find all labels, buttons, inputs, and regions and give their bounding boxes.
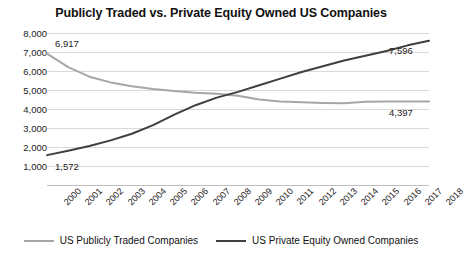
x-axis-tick-label: 2010 bbox=[274, 186, 295, 207]
x-axis-tick-label: 2011 bbox=[295, 186, 316, 207]
x-axis-tick-label: 2008 bbox=[232, 186, 253, 207]
series-line bbox=[47, 41, 429, 155]
y-axis-tick-label: 2,000 bbox=[3, 142, 47, 153]
y-axis-tick-label: 1,000 bbox=[3, 161, 47, 172]
x-axis-tick-label: 2014 bbox=[359, 186, 380, 207]
data-point-label: 1,572 bbox=[55, 161, 79, 172]
y-axis-tick-label: 5,000 bbox=[3, 85, 47, 96]
y-axis-tick-label: 4,000 bbox=[3, 104, 47, 115]
plot-area: 6,9171,5727,5964,397 bbox=[47, 33, 429, 185]
x-axis-tick-label: 2000 bbox=[62, 186, 83, 207]
y-axis-tick-label: 3,000 bbox=[3, 123, 47, 134]
legend-item-label: US Publicly Traded Companies bbox=[60, 235, 198, 246]
y-axis-tick-label: 6,000 bbox=[3, 66, 47, 77]
x-axis-tick-label: 2003 bbox=[126, 186, 147, 207]
y-axis: 8,0007,0006,0005,0004,0003,0002,0001,000 bbox=[0, 33, 47, 185]
x-axis-tick-label: 2007 bbox=[210, 186, 231, 207]
x-axis-tick-label: 2012 bbox=[317, 186, 338, 207]
y-axis-tick-label: 7,000 bbox=[3, 47, 47, 58]
chart-legend: US Publicly Traded CompaniesUS Private E… bbox=[0, 235, 442, 246]
x-axis-tick-label: 2018 bbox=[444, 186, 465, 207]
legend-item-label: US Private Equity Owned Companies bbox=[252, 235, 418, 246]
x-axis-tick-label: 2001 bbox=[83, 186, 104, 207]
x-axis-tick-label: 2005 bbox=[168, 186, 189, 207]
x-axis-tick-label: 2009 bbox=[253, 186, 274, 207]
x-axis-tick-label: 2016 bbox=[401, 186, 422, 207]
y-axis-tick-label: 8,000 bbox=[3, 28, 47, 39]
chart-title: Publicly Traded vs. Private Equity Owned… bbox=[0, 6, 442, 20]
legend-item[interactable]: US Publicly Traded Companies bbox=[24, 235, 198, 246]
data-point-label: 7,596 bbox=[389, 45, 413, 56]
legend-color-swatch bbox=[24, 240, 54, 242]
data-point-label: 4,397 bbox=[389, 107, 413, 118]
x-axis: 2000200120022003200420052006200720082009… bbox=[47, 186, 429, 228]
x-axis-tick-label: 2013 bbox=[338, 186, 359, 207]
x-axis-tick-label: 2017 bbox=[423, 186, 444, 207]
legend-item[interactable]: US Private Equity Owned Companies bbox=[216, 235, 418, 246]
series-line bbox=[47, 54, 429, 104]
x-axis-tick-label: 2015 bbox=[380, 186, 401, 207]
legend-color-swatch bbox=[216, 240, 246, 242]
data-point-label: 6,917 bbox=[55, 38, 79, 49]
series-lines bbox=[47, 33, 429, 185]
x-axis-tick-label: 2002 bbox=[104, 186, 125, 207]
x-axis-tick-label: 2006 bbox=[189, 186, 210, 207]
x-axis-tick-label: 2004 bbox=[147, 186, 168, 207]
